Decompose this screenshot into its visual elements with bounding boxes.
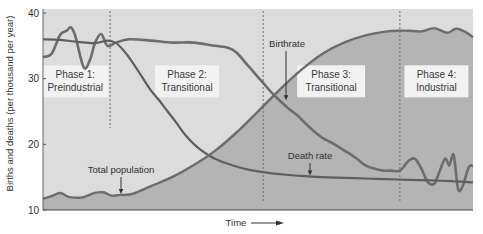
time-arrow-icon	[251, 221, 284, 226]
y-tick-label: 40	[28, 8, 40, 19]
x-axis-title: Time	[226, 217, 247, 228]
y-tick-label: 30	[28, 73, 40, 84]
phase-label-title: Phase 2:	[167, 69, 206, 80]
y-tick-label: 20	[28, 139, 40, 150]
demographic-transition-chart: Phase 1:PreindustrialPhase 2:Transitiona…	[0, 0, 483, 234]
phase-label-title: Phase 1:	[56, 69, 95, 80]
phase-label-1: Phase 1:Preindustrial	[42, 65, 108, 97]
phase-label-subtitle: Preindustrial	[47, 82, 103, 93]
phase-label-subtitle: Transitional	[305, 82, 356, 93]
y-axis-title: Births and deaths (per thousand per year…	[4, 16, 15, 192]
population-annotation-label: Total population	[88, 164, 155, 175]
phase-label-subtitle: Industrial	[416, 82, 457, 93]
phase-label-subtitle: Transitional	[161, 82, 212, 93]
birthrate-annotation-label: Birthrate	[269, 38, 305, 49]
phase-label-title: Phase 3:	[311, 69, 350, 80]
phase-label-2: Phase 2:Transitional	[155, 65, 219, 97]
y-tick-label: 10	[28, 205, 40, 216]
death-rate-annotation-label: Death rate	[288, 150, 332, 161]
phase-label-4: Phase 4:Industrial	[404, 65, 468, 97]
phase-label-3: Phase 3:Transitional	[297, 65, 365, 97]
phase-label-title: Phase 4:	[417, 69, 456, 80]
